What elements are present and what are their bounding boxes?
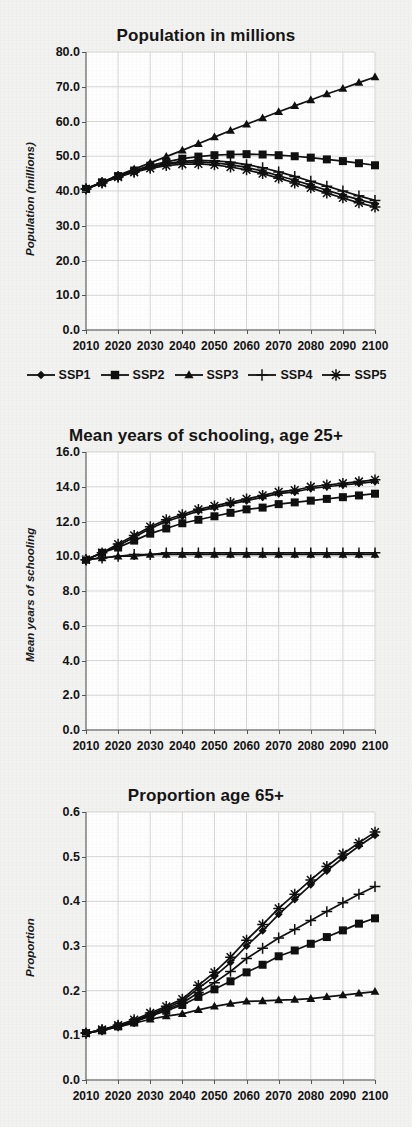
y-axis-label: Population (millions) [24,142,36,256]
y-tick-label: 30.0 [36,220,80,233]
x-tick-mark [375,1080,376,1084]
x-tick-mark [247,730,248,734]
x-tick-mark [311,330,312,334]
plot-area-population [86,52,375,330]
x-tick-mark [86,730,87,734]
x-tick-mark [214,730,215,734]
chart-legend: SSP1SSP2SSP3SSP4SSP5 [0,368,412,382]
x-tick-mark [150,1080,151,1084]
y-tick-mark [82,857,86,858]
x-tick-mark [279,330,280,334]
x-tick-mark [86,1080,87,1084]
y-axis-label: Proportion [24,918,36,977]
y-tick-mark [82,122,86,123]
y-tick-mark [82,812,86,813]
x-tick-label: 2100 [355,740,395,752]
y-tick-mark [82,226,86,227]
legend-marker-asterisk-icon [321,368,351,382]
x-tick-mark [182,730,183,734]
y-tick-label: 60.0 [36,116,80,129]
y-tick-mark [82,991,86,992]
y-tick-label: 0.2 [36,985,80,998]
y-tick-mark [82,556,86,557]
y-tick-label: 0.3 [36,940,80,953]
x-tick-mark [343,1080,344,1084]
chart-title: Mean years of schooling, age 25+ [0,426,412,446]
y-axis-label: Mean years of schooling [24,528,36,662]
legend-marker-plus-icon [247,368,277,382]
x-tick-mark [375,730,376,734]
legend-item-ssp2[interactable]: SSP2 [100,368,165,382]
x-tick-mark [86,330,87,334]
y-tick-label: 12.0 [36,516,80,529]
y-tick-label: 40.0 [36,185,80,198]
y-tick-mark [82,87,86,88]
y-tick-label: 0.4 [36,895,80,908]
chart-svg-population [86,52,375,330]
y-tick-mark [82,1035,86,1036]
x-tick-mark [279,1080,280,1084]
y-tick-label: 0.0 [36,724,80,737]
y-tick-label: 0.1 [36,1029,80,1042]
y-tick-label: 8.0 [36,585,80,598]
y-tick-label: 70.0 [36,81,80,94]
x-tick-mark [118,1080,119,1084]
x-tick-mark [343,330,344,334]
y-tick-mark [82,261,86,262]
y-tick-label: 10.0 [36,550,80,563]
legend-item-ssp4[interactable]: SSP4 [247,368,312,382]
y-tick-mark [82,191,86,192]
chart-svg-proportion [86,812,375,1080]
legend-label: SSP5 [354,368,386,382]
x-tick-mark [118,330,119,334]
legend-label: SSP4 [280,368,312,382]
plot-area-proportion [86,812,375,1080]
y-tick-mark [82,452,86,453]
y-tick-label: 20.0 [36,255,80,268]
legend-label: SSP1 [59,368,91,382]
x-tick-mark [279,730,280,734]
legend-marker-triangle-icon [174,368,204,382]
y-tick-label: 0.0 [36,324,80,337]
legend-label: SSP3 [207,368,239,382]
chart-svg-schooling [86,452,375,730]
x-tick-mark [375,330,376,334]
y-tick-mark [82,295,86,296]
x-tick-mark [343,730,344,734]
x-tick-mark [247,330,248,334]
y-tick-label: 4.0 [36,655,80,668]
legend-item-ssp3[interactable]: SSP3 [174,368,239,382]
figure-page: Population in millions 0.010.020.030.040… [0,0,412,1127]
y-tick-mark [82,156,86,157]
y-tick-label: 0.6 [36,806,80,819]
y-tick-mark [82,591,86,592]
chart-title: Proportion age 65+ [0,786,412,806]
legend-marker-square-icon [100,368,130,382]
y-tick-mark [82,695,86,696]
y-tick-label: 10.0 [36,289,80,302]
y-tick-mark [82,946,86,947]
y-tick-mark [82,487,86,488]
chart-panel-proportion: Proportion age 65+ 0.00.10.20.30.40.50.6… [0,760,412,1127]
y-tick-label: 80.0 [36,46,80,59]
y-tick-label: 16.0 [36,446,80,459]
chart-panel-population: Population in millions 0.010.020.030.040… [0,0,412,400]
y-tick-mark [82,522,86,523]
chart-panel-schooling: Mean years of schooling, age 25+ 0.02.04… [0,400,412,760]
y-tick-label: 0.5 [36,851,80,864]
y-tick-label: 0.0 [36,1074,80,1087]
y-tick-label: 14.0 [36,481,80,494]
x-tick-mark [118,730,119,734]
legend-item-ssp5[interactable]: SSP5 [321,368,386,382]
legend-item-ssp1[interactable]: SSP1 [26,368,91,382]
x-tick-label: 2100 [355,1090,395,1102]
y-tick-label: 6.0 [36,620,80,633]
x-tick-mark [311,730,312,734]
y-tick-mark [82,901,86,902]
y-tick-label: 50.0 [36,150,80,163]
x-tick-mark [150,330,151,334]
x-tick-mark [182,1080,183,1084]
x-tick-label: 2100 [355,340,395,352]
legend-marker-diamond-icon [26,368,56,382]
x-tick-mark [150,730,151,734]
